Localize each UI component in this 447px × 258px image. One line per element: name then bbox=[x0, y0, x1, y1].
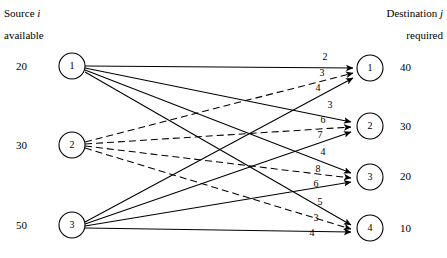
cost-label-s2-d4: 3 bbox=[314, 212, 319, 223]
cost-label-s3-d4: 4 bbox=[310, 227, 315, 238]
source-node-3-label: 3 bbox=[70, 219, 75, 230]
destination-nodes: 1 2 3 4 bbox=[357, 55, 383, 241]
cost-label-s1-d4: 5 bbox=[318, 196, 323, 207]
cost-label-s3-d2: 7 bbox=[318, 129, 323, 140]
cost-labels: 2 3 4 3 6 7 4 8 6 5 3 4 bbox=[310, 51, 333, 238]
cost-label-s3-d3: 6 bbox=[314, 178, 319, 189]
destination-node-1-label: 1 bbox=[368, 62, 373, 73]
destination-node-4-label: 4 bbox=[368, 222, 373, 233]
cost-label-s2-d2: 6 bbox=[321, 114, 326, 125]
destination-node-3-label: 3 bbox=[368, 171, 373, 182]
cost-label-s1-d1: 2 bbox=[323, 51, 328, 62]
source-nodes: 1 2 3 bbox=[59, 53, 85, 238]
cost-label-s2-d3: 8 bbox=[316, 163, 321, 174]
edge-s1-d1 bbox=[85, 66, 353, 68]
cost-label-s1-d2: 3 bbox=[328, 99, 333, 110]
edge-s2-d2 bbox=[85, 127, 351, 144]
cost-label-s2-d1: 3 bbox=[320, 67, 325, 78]
cost-label-s3-d1: 4 bbox=[316, 82, 321, 93]
edge-s3-d1 bbox=[85, 78, 353, 222]
edge-s3-d3 bbox=[85, 182, 351, 226]
network-diagram: Source i available Destination j require… bbox=[0, 0, 447, 258]
source-node-2-label: 2 bbox=[70, 139, 75, 150]
source-node-1-label: 1 bbox=[70, 60, 75, 71]
destination-node-2-label: 2 bbox=[368, 120, 373, 131]
cost-label-s1-d3: 4 bbox=[321, 146, 326, 157]
edge-s1-d3 bbox=[85, 70, 351, 173]
edge-s2-d1 bbox=[85, 73, 353, 142]
network-graph-canvas: 1 2 3 1 2 3 4 2 3 4 3 6 7 4 8 6 5 bbox=[0, 0, 447, 258]
edge-s3-d2 bbox=[85, 132, 351, 224]
edge-group bbox=[85, 66, 353, 232]
